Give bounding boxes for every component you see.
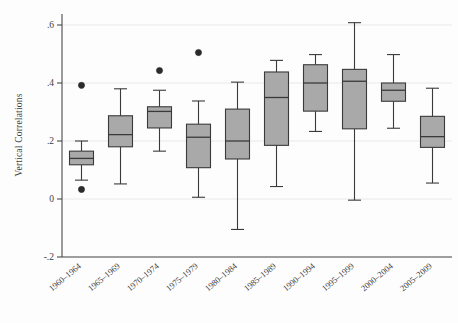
box-iqr [265,72,289,145]
outlier-point [195,49,201,55]
box-plot-item [148,67,172,151]
box-iqr [226,109,250,159]
box-plot-item [70,82,94,192]
outlier-point [78,82,84,88]
x-tick-label: 1960–1964 [47,260,84,293]
box-plot-item [226,82,250,229]
boxplot-figure: Vertical Correlations -.20.2.4.6 1960–19… [0,0,458,323]
box-plot-item [187,49,211,197]
x-axis-labels-group: 1960–19641965–19691970–19741975–19791980… [47,260,434,293]
y-tick-label: .4 [47,78,54,88]
x-tick-label: 1995–1999 [320,261,356,294]
box-iqr [187,124,211,167]
box-iqr [148,107,172,128]
x-tick-label: 2005–2009 [398,261,434,294]
x-tick-label: 2000–2004 [359,260,396,293]
x-tick-label: 1975–1979 [164,261,200,294]
box-iqr [343,69,367,128]
y-tick-label: 0 [49,194,54,204]
x-tick-label: 1985–1989 [242,261,278,294]
y-tick-label: .2 [47,136,54,146]
box-plots-group [70,23,445,230]
box-iqr [109,116,133,147]
box-plot-item [109,89,133,184]
box-plot-item [382,55,406,129]
y-tick-label: .6 [47,20,54,30]
x-tick-label: 1990–1994 [281,260,318,293]
box-plot-item [421,88,445,183]
x-tick-label: 1970–1974 [125,260,162,293]
outlier-point [156,67,162,73]
boxplot-canvas: -.20.2.4.6 1960–19641965–19691970–197419… [0,0,458,323]
outlier-point [78,186,84,192]
box-iqr [382,83,406,101]
box-plot-item [343,23,367,200]
x-tick-label: 1965–1969 [86,261,122,294]
box-iqr [304,65,328,111]
box-plot-item [265,60,289,186]
box-iqr [421,116,445,147]
box-plot-item [304,55,328,132]
y-axis-ticks-group: -.20.2.4.6 [44,20,62,262]
y-tick-label: -.2 [44,252,55,262]
x-tick-label: 1980–1984 [203,260,240,293]
